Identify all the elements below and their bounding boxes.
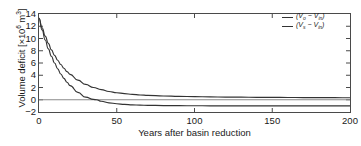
x-tick-label: 150 xyxy=(252,115,292,126)
y-tick-label: 4 xyxy=(2,70,36,80)
x-tick-label: 0 xyxy=(19,115,59,126)
y-tick-label: 0 xyxy=(2,95,36,105)
y-tick-label: 10 xyxy=(2,34,36,44)
y-tick-label: 8 xyxy=(2,46,36,56)
y-tick-label: 2 xyxy=(2,83,36,93)
legend-item: (Vs − Vin) xyxy=(282,22,344,31)
y-tick-label: 14 xyxy=(2,9,36,19)
x-tick-label: 100 xyxy=(175,115,215,126)
chart-figure: Volume deficit [×106 m3] 14121086420−2 0… xyxy=(0,0,361,146)
legend-line-swatch xyxy=(282,17,293,18)
chart-legend: (Vo − Vin)(Vs − Vin) xyxy=(282,13,344,31)
y-axis-tick-labels: 14121086420−2 xyxy=(0,13,36,113)
x-axis-label: Years after basin reduction xyxy=(38,127,351,138)
legend-line-swatch xyxy=(282,26,293,27)
y-tick-label: 12 xyxy=(2,21,36,31)
x-tick-label: 200 xyxy=(330,115,361,126)
x-tick-label: 50 xyxy=(97,115,137,126)
legend-label: (Vs − Vin) xyxy=(296,20,324,32)
x-axis-tick-labels: 050100150200 xyxy=(38,115,351,127)
y-tick-label: 6 xyxy=(2,58,36,68)
